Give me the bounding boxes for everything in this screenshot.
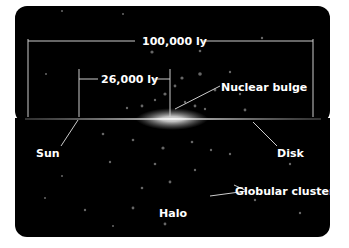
halo-label: Halo [159,207,187,220]
total-diameter-label: 100,000 ly [142,35,207,48]
globular-clusters-label: Globular clusters [235,185,330,198]
diagram-panel: 100,000 ly 26,000 ly Nuclear bulge [15,6,330,123]
galaxy-art [15,6,330,123]
diagram-panel-lower: Sun Disk Globular clusters Halo [15,118,330,237]
sun-distance-label: 26,000 ly [101,73,158,86]
sun-label: Sun [36,147,60,160]
disk-label: Disk [277,147,304,160]
nuclear-bulge-label: Nuclear bulge [221,81,307,94]
